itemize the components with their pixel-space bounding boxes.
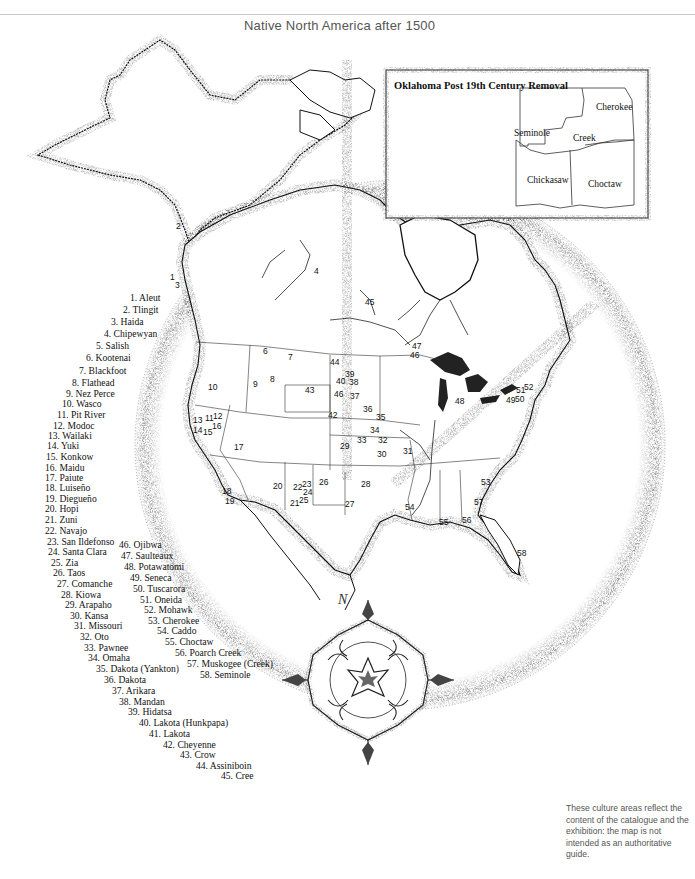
legend-item: 32. Oto: [80, 632, 109, 642]
legend-item: 56. Poarch Creek: [175, 648, 241, 658]
map-number-label: 2: [176, 222, 181, 231]
legend-item: 4. Chipewyan: [104, 329, 157, 339]
legend-item: 43. Crow: [180, 750, 216, 760]
map-number-label: 43: [305, 386, 314, 395]
map-number-label: 53: [481, 478, 490, 487]
legend-item: 14. Yuki: [47, 441, 79, 451]
map-number-label: 54: [405, 503, 414, 512]
map-number-label: 14: [193, 426, 202, 435]
map-number-label: 13: [193, 416, 202, 425]
inset-title: Oklahoma Post 19th Century Removal: [394, 80, 568, 91]
legend-item: 6. Kootenai: [86, 353, 131, 363]
map-number-label: 45: [365, 298, 374, 307]
map-number-label: 37: [350, 392, 359, 401]
legend-item: 40. Lakota (Hunkpapa): [139, 718, 228, 728]
map-number-label: 33: [357, 436, 366, 445]
legend-item: 37. Arikara: [112, 686, 155, 696]
oklahoma-inset: [386, 70, 648, 218]
map-number-label: 25: [299, 496, 308, 505]
map-number-label: 8: [270, 375, 275, 384]
inset-region-creek: Creek: [573, 133, 596, 143]
legend-item: 52. Mohawk: [144, 605, 193, 615]
map-number-label: 4: [314, 267, 319, 276]
inset-region-choctaw: Choctaw: [588, 179, 622, 189]
legend-item: 26. Taos: [53, 568, 85, 578]
map-number-label: 35: [376, 413, 385, 422]
legend-item: 57. Muskogee (Creek): [187, 659, 273, 669]
map-number-label: 56: [462, 516, 471, 525]
inset-region-chickasaw: Chickasaw: [527, 175, 569, 185]
map-number-label: 29: [340, 442, 349, 451]
map-number-label: 17: [234, 443, 243, 452]
map-number-label: 36: [363, 405, 372, 414]
map-number-label: 30: [377, 450, 386, 459]
legend-item: 31. Missouri: [74, 621, 123, 631]
legend-item: 36. Dakota: [104, 675, 146, 685]
legend-item: 7. Blackfoot: [79, 366, 126, 376]
map-number-label: 18: [222, 487, 231, 496]
map-number-label: 52: [524, 383, 533, 392]
legend-item: 58. Seminole: [200, 670, 251, 680]
legend-item: 35. Dakota (Yankton): [96, 664, 179, 674]
legend-item: 24. Santa Clara: [48, 547, 107, 557]
map-number-label: 50: [515, 395, 524, 404]
legend-item: 22. Navajo: [45, 526, 87, 536]
legend-item: 41. Lakota: [149, 729, 190, 739]
legend-item: 46. Ojibwa: [119, 540, 162, 550]
map-canvas: N: [0, 0, 695, 879]
legend-item: 15. Konkow: [46, 452, 93, 462]
legend-item: 54. Caddo: [157, 626, 196, 636]
map-number-label: 28: [361, 480, 370, 489]
map-number-label: 9: [253, 380, 258, 389]
map-number-label: 31: [403, 447, 412, 456]
legend-item: 48. Potawatomi: [124, 562, 184, 572]
map-number-label: 21: [290, 499, 299, 508]
legend-item: 18. Luiseño: [45, 483, 90, 493]
map-number-label: 44: [330, 358, 339, 367]
legend-item: 3. Haida: [111, 317, 144, 327]
legend-item: 21. Zuni: [45, 515, 78, 525]
map-number-label: 20: [273, 482, 282, 491]
map-number-label: 19: [225, 497, 234, 506]
legend-item: 47. Saulteaux: [121, 551, 173, 561]
map-number-label: 7: [288, 353, 293, 362]
legend-item: 27. Comanche: [57, 579, 112, 589]
legend-item: 45. Cree: [221, 771, 254, 781]
legend-item: 10. Wasco: [62, 399, 102, 409]
legend-item: 1. Aleut: [130, 293, 160, 303]
map-number-label: 32: [378, 436, 387, 445]
inset-region-cherokee: Cherokee: [596, 102, 632, 112]
map-number-label: 6: [263, 347, 268, 356]
map-number-label: 10: [208, 383, 217, 392]
map-number-label: 46: [410, 351, 419, 360]
legend-item: 5. Salish: [96, 341, 129, 351]
legend-item: 11. Pit River: [57, 410, 105, 420]
legend-item: 39. Hidatsa: [128, 707, 172, 717]
legend-item: 34. Omaha: [88, 653, 130, 663]
map-number-label: 38: [349, 378, 358, 387]
legend-item: 29. Arapaho: [65, 600, 112, 610]
legend-item: 2. Tlingit: [123, 305, 159, 315]
legend-item: 49. Seneca: [130, 573, 172, 583]
inset-region-seminole: Seminole: [514, 128, 550, 138]
map-number-label: 27: [345, 500, 354, 509]
map-number-label: 42: [328, 411, 337, 420]
compass-north-label: N: [337, 592, 348, 607]
map-number-label: 26: [319, 478, 328, 487]
map-number-label: 58: [517, 549, 526, 558]
map-number-label: 40: [336, 377, 345, 386]
map-number-label: 3: [175, 281, 180, 290]
map-number-label: 16: [212, 422, 221, 431]
legend-item: 8. Flathead: [72, 378, 115, 388]
map-number-label: 48: [455, 397, 464, 406]
map-number-label: 55: [439, 518, 448, 527]
map-number-label: 57: [474, 498, 483, 507]
legend-item: 20. Hopi: [45, 504, 79, 514]
map-number-label: 12: [213, 412, 222, 421]
legend-item: 50. Tuscarora: [133, 584, 185, 594]
map-number-label: 46: [334, 390, 343, 399]
map-caption: These culture areas reflect the content …: [566, 803, 694, 861]
map-number-label: 34: [370, 426, 379, 435]
legend-item: 55. Choctaw: [165, 637, 214, 647]
